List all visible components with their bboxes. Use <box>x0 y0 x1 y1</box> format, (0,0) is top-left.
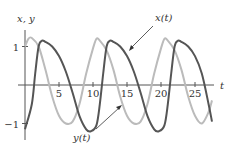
x-tick-label: 25 <box>189 88 202 99</box>
y-tick-label: 1 <box>13 42 19 53</box>
x-axis-label: t <box>220 80 225 91</box>
y-axis-label: x, y <box>17 13 35 24</box>
y-series-line <box>25 37 212 124</box>
y-series-annotation: y(t) <box>72 132 91 143</box>
x-tick-label: 20 <box>155 88 168 99</box>
x-tick-label: 5 <box>56 88 62 99</box>
x-series-annotation: x(t) <box>155 12 173 23</box>
predator-prey-chart: 510152025 1−1 x, y t x(t) y(t) <box>0 0 233 150</box>
y-tick-label: −1 <box>4 119 19 130</box>
x-annotation-arrow <box>131 26 153 48</box>
x-tick-label: 10 <box>87 88 100 99</box>
y-arrowhead-icon <box>116 105 122 110</box>
x-tick-label: 15 <box>121 88 134 99</box>
